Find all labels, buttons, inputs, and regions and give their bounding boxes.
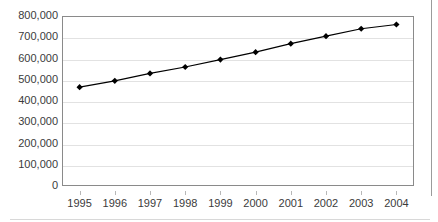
- x-tick-label: 2002: [306, 197, 346, 210]
- line-chart: 0100,000200,000300,000400,000500,000600,…: [0, 0, 438, 222]
- x-tick-label: 1995: [60, 197, 100, 210]
- y-tick-label: 800,000: [0, 10, 58, 21]
- x-tick-mark: [220, 191, 221, 195]
- plot-area: [62, 16, 414, 186]
- y-tick-label: 100,000: [0, 159, 58, 170]
- x-tick-mark: [361, 191, 362, 195]
- x-tick-label: 2000: [236, 197, 276, 210]
- x-tick-mark: [115, 191, 116, 195]
- y-tick-label: 400,000: [0, 95, 58, 106]
- x-tick-mark: [326, 191, 327, 195]
- gridline: [63, 123, 413, 124]
- x-tick-label: 1997: [130, 197, 170, 210]
- y-tick-label: 700,000: [0, 31, 58, 42]
- x-tick-mark: [256, 191, 257, 195]
- y-tick-label: 600,000: [0, 53, 58, 64]
- bottom-edge-rule: [10, 219, 430, 220]
- x-axis: 1995199619971998199920002001200220032004: [0, 191, 438, 211]
- gridline: [63, 166, 413, 167]
- y-tick-label: 500,000: [0, 74, 58, 85]
- gridline: [63, 60, 413, 61]
- y-axis: 0100,000200,000300,000400,000500,000600,…: [0, 0, 58, 222]
- gridline: [63, 102, 413, 103]
- x-tick-label: 2004: [376, 197, 416, 210]
- x-tick-label: 1999: [200, 197, 240, 210]
- gridline: [63, 81, 413, 82]
- x-tick-mark: [291, 191, 292, 195]
- x-tick-label: 1998: [165, 197, 205, 210]
- x-tick-mark: [150, 191, 151, 195]
- x-tick-label: 1996: [95, 197, 135, 210]
- gridline: [63, 145, 413, 146]
- right-edge-rule: [431, 0, 432, 196]
- y-tick-label: 200,000: [0, 138, 58, 149]
- x-tick-label: 2003: [341, 197, 381, 210]
- x-tick-label: 2001: [271, 197, 311, 210]
- x-tick-mark: [396, 191, 397, 195]
- y-tick-label: 300,000: [0, 116, 58, 127]
- x-tick-mark: [80, 191, 81, 195]
- gridline: [63, 38, 413, 39]
- y-tick-label: 0: [0, 180, 58, 191]
- x-tick-mark: [185, 191, 186, 195]
